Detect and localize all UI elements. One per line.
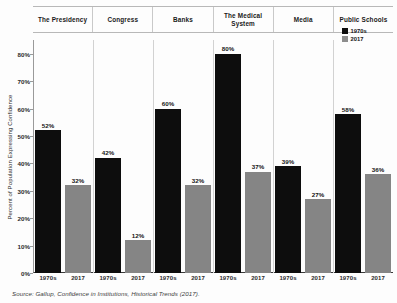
x-tick-group: 1970s2017 — [213, 275, 273, 286]
x-axis-tick-label: 1970s — [333, 275, 363, 286]
x-tick-group: 1970s2017 — [33, 275, 93, 286]
y-axis-tick-mark — [30, 273, 33, 274]
x-axis-tick-label: 2017 — [123, 275, 153, 286]
column-divider — [153, 40, 154, 273]
source-note: Source: Gallup, Confidence in Institutio… — [12, 290, 200, 297]
category-header-cell: Banks — [153, 7, 213, 32]
bar-value-label: 32% — [72, 177, 84, 184]
column-divider — [333, 40, 334, 273]
column-divider — [213, 40, 214, 273]
chart-figure: The Presidency Congress Banks The Medica… — [0, 0, 397, 303]
bar-value-label: 32% — [192, 177, 204, 184]
bar-value-label: 58% — [342, 106, 354, 113]
plot-area: 0%10%20%30%40%50%60%70%80% 52%32%42%12%6… — [33, 40, 393, 273]
bar-value-label: 37% — [252, 163, 264, 170]
x-axis-tick-label: 2017 — [243, 275, 273, 286]
x-axis-tick-label: 1970s — [93, 275, 123, 286]
category-header-band: The Presidency Congress Banks The Medica… — [33, 6, 393, 33]
x-axis-tick-label: 2017 — [183, 275, 213, 286]
bar: 36% — [365, 174, 391, 273]
y-axis-title: Percent of Population Expressing Confide… — [7, 94, 13, 219]
category-header-cell: The Medical System — [214, 7, 274, 32]
x-axis-tick-label: 2017 — [363, 275, 393, 286]
bar-value-label: 42% — [102, 149, 114, 156]
y-axis-tick-mark — [30, 109, 33, 110]
category-header-cell: The Presidency — [33, 7, 93, 32]
bar: 42% — [95, 158, 121, 273]
bar: 32% — [65, 185, 91, 273]
y-axis-tick-mark — [30, 81, 33, 82]
legend-label: 1970s — [351, 28, 367, 34]
y-axis-tick-label: 0% — [21, 270, 30, 277]
bar-value-label: 36% — [372, 166, 384, 173]
legend-swatch-icon — [342, 28, 348, 34]
y-axis-tick-label: 70% — [18, 78, 30, 85]
x-axis-tick-label: 1970s — [33, 275, 63, 286]
bar: 37% — [245, 172, 271, 273]
column-divider — [273, 40, 274, 273]
y-axis-title-wrap: Percent of Population Expressing Confide… — [4, 40, 16, 273]
y-axis-tick-label: 40% — [18, 160, 30, 167]
y-axis-tick-mark — [30, 246, 33, 247]
y-axis-tick-label: 60% — [18, 105, 30, 112]
bar: 52% — [35, 130, 61, 273]
bar-value-label: 39% — [282, 158, 294, 165]
bar: 32% — [185, 185, 211, 273]
category-header-cell: Media — [274, 7, 334, 32]
y-axis-tick-label: 50% — [18, 132, 30, 139]
x-axis-tick-label: 2017 — [303, 275, 333, 286]
y-axis-tick-label: 10% — [18, 242, 30, 249]
bar: 27% — [305, 199, 331, 273]
y-axis-tick-mark — [30, 191, 33, 192]
category-header-cell: Congress — [93, 7, 153, 32]
bar-value-label: 12% — [132, 232, 144, 239]
y-axis-tick-label: 30% — [18, 187, 30, 194]
bar-value-label: 27% — [312, 191, 324, 198]
x-axis-tick-label: 1970s — [213, 275, 243, 286]
bar: 80% — [215, 54, 241, 273]
legend-item-1970s: 1970s — [342, 28, 367, 34]
x-tick-group: 1970s2017 — [333, 275, 393, 286]
y-axis-tick-mark — [30, 218, 33, 219]
y-axis-tick-mark — [30, 163, 33, 164]
bar: 39% — [275, 166, 301, 273]
bar-value-label: 80% — [222, 45, 234, 52]
bar: 12% — [125, 240, 151, 273]
bar: 60% — [155, 109, 181, 273]
x-tick-group: 1970s2017 — [93, 275, 153, 286]
bar-value-label: 60% — [162, 100, 174, 107]
x-axis-tick-labels: 1970s20171970s20171970s20171970s20171970… — [33, 275, 393, 286]
x-axis-tick-label: 1970s — [153, 275, 183, 286]
x-tick-group: 1970s2017 — [273, 275, 333, 286]
x-axis-tick-label: 2017 — [63, 275, 93, 286]
y-axis-tick-label: 80% — [18, 50, 30, 57]
y-axis-tick-mark — [30, 136, 33, 137]
bar-value-label: 52% — [42, 122, 54, 129]
y-axis-tick-label: 20% — [18, 215, 30, 222]
x-axis-tick-label: 1970s — [273, 275, 303, 286]
y-axis-tick-mark — [30, 54, 33, 55]
x-tick-group: 1970s2017 — [153, 275, 213, 286]
bar: 58% — [335, 114, 361, 273]
column-divider — [93, 40, 94, 273]
